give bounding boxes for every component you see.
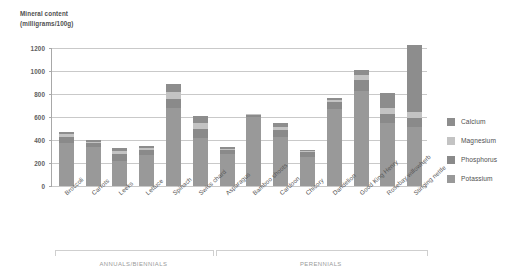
bar-segment-phosphorus xyxy=(327,102,342,109)
bar[interactable] xyxy=(300,150,315,186)
y-axis-tick xyxy=(49,48,52,49)
y-axis-tick-label: 800 xyxy=(11,91,45,98)
bar-segment-potassium xyxy=(166,108,181,186)
y-axis-tick xyxy=(49,140,52,141)
bar-segment-phosphorus xyxy=(407,118,422,127)
bar-segment-potassium xyxy=(354,91,369,186)
bar-segment-calcium xyxy=(407,45,422,112)
y-axis-tick-label: 600 xyxy=(11,114,45,121)
bar[interactable] xyxy=(166,84,181,186)
bar-segment-phosphorus xyxy=(380,114,395,123)
bar-segment-phosphorus xyxy=(273,130,288,137)
chart-legend: CalciumMagnesiumPhosphorusPotassium xyxy=(447,112,497,188)
gridline xyxy=(52,94,427,95)
legend-swatch-icon xyxy=(447,156,455,164)
legend-label: Phosphorus xyxy=(461,156,497,163)
bar-segment-phosphorus xyxy=(193,129,208,138)
legend-label: Calcium xyxy=(461,118,486,125)
y-axis-tick-label: 1200 xyxy=(11,45,45,52)
bar-segment-potassium xyxy=(327,109,342,186)
group-label: PERENNIALS xyxy=(216,261,426,267)
legend-label: Potassium xyxy=(461,175,493,182)
legend-item[interactable]: Calcium xyxy=(447,112,497,131)
y-axis-tick xyxy=(49,163,52,164)
y-axis-tick xyxy=(49,94,52,95)
bar-segment-potassium xyxy=(193,138,208,186)
bar[interactable] xyxy=(327,98,342,186)
group-label: ANNUALS/BIENNIALS xyxy=(55,261,212,267)
bar-segment-potassium xyxy=(273,137,288,186)
legend-item[interactable]: Magnesium xyxy=(447,131,497,150)
gridline xyxy=(52,163,427,164)
bar-segment-phosphorus xyxy=(112,154,127,161)
y-axis-tick-label: 1000 xyxy=(11,68,45,75)
legend-swatch-icon xyxy=(447,175,455,183)
bar-segment-calcium xyxy=(380,93,395,107)
y-axis-tick xyxy=(49,71,52,72)
bar[interactable] xyxy=(86,140,101,186)
bar[interactable] xyxy=(139,146,154,186)
legend-item[interactable]: Phosphorus xyxy=(447,150,497,169)
legend-swatch-icon xyxy=(447,137,455,145)
y-axis-tick-label: 400 xyxy=(11,137,45,144)
bar[interactable] xyxy=(354,70,369,186)
gridline xyxy=(52,71,427,72)
bar-segment-phosphorus xyxy=(354,80,369,90)
y-axis-tick-label: 0 xyxy=(11,183,45,190)
bar-segment-magnesium xyxy=(166,92,181,99)
bar-segment-calcium xyxy=(166,84,181,91)
bar-segment-potassium xyxy=(59,143,74,186)
group-bracket xyxy=(216,250,428,256)
bar[interactable] xyxy=(193,116,208,186)
mineral-content-chart: Mineral content (milligrams/100g) 020040… xyxy=(0,0,529,280)
gridline xyxy=(52,140,427,141)
group-bracket xyxy=(55,250,214,256)
y-axis-tick xyxy=(49,117,52,118)
legend-item[interactable]: Potassium xyxy=(447,169,497,188)
bar-segment-potassium xyxy=(86,147,101,186)
legend-label: Magnesium xyxy=(461,137,496,144)
bar-segment-phosphorus xyxy=(59,137,74,144)
bar-segment-phosphorus xyxy=(166,99,181,108)
gridline xyxy=(52,48,427,49)
bar-segment-potassium xyxy=(139,155,154,186)
bar[interactable] xyxy=(59,132,74,186)
y-axis-title: Mineral content (milligrams/100g) xyxy=(20,9,74,28)
plot-area: 020040060080010001200 xyxy=(52,48,427,186)
y-axis-tick xyxy=(49,186,52,187)
bar[interactable] xyxy=(112,148,127,187)
legend-swatch-icon xyxy=(447,118,455,126)
gridline xyxy=(52,117,427,118)
y-axis-tick-label: 200 xyxy=(11,160,45,167)
bar[interactable] xyxy=(220,147,235,186)
